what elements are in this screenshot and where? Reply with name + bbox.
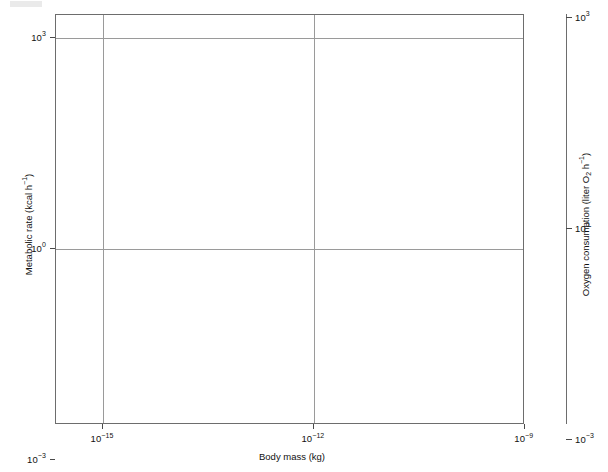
secondary-y-axis-tick-label: 103 bbox=[575, 12, 590, 23]
y-axis-title: Metabolic rate (kcal h−1) bbox=[23, 145, 34, 305]
secondary-y-axis-tick bbox=[566, 439, 572, 440]
secondary-y-axis-tick-label: 10−3 bbox=[575, 433, 594, 444]
secondary-y-axis-tick bbox=[566, 228, 572, 229]
x-axis-tick bbox=[524, 424, 525, 429]
x-axis-tick-label: 10−9 bbox=[514, 433, 533, 444]
y-axis-tick-label: 10−3 bbox=[13, 453, 46, 464]
y-gridline bbox=[56, 38, 523, 39]
x-axis-tick-label: 10−12 bbox=[301, 433, 324, 444]
y-axis-tick-label: 100 bbox=[13, 242, 46, 253]
secondary-y-axis-tick-label: 100 bbox=[575, 222, 590, 233]
plot-area bbox=[55, 14, 524, 424]
chart-canvas: Body mass (kg) Metabolic rate (kcal h−1)… bbox=[0, 0, 608, 472]
x-axis-tick bbox=[102, 424, 103, 429]
y-axis-tick bbox=[50, 248, 55, 249]
y-axis-tick bbox=[50, 459, 55, 460]
y-gridline bbox=[56, 249, 523, 250]
x-axis-tick-label: 10−15 bbox=[91, 433, 114, 444]
secondary-y-axis-tick bbox=[566, 17, 572, 18]
x-axis-tick bbox=[313, 424, 314, 429]
y-axis-tick-label: 103 bbox=[13, 32, 46, 43]
x-axis-title: Body mass (kg) bbox=[259, 451, 325, 462]
x-gridline bbox=[314, 15, 315, 423]
right-axis-spine bbox=[566, 14, 567, 424]
y-axis-tick bbox=[50, 37, 55, 38]
x-gridline bbox=[103, 15, 104, 423]
top-left-scan-artifact bbox=[10, 1, 42, 7]
